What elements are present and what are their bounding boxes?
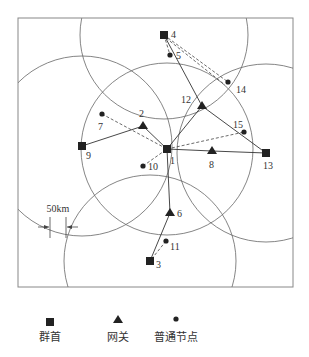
link-9-2: [82, 126, 143, 146]
cluster-head-icon: [163, 145, 171, 153]
cluster-head-legend-icon: [46, 318, 54, 326]
link-1-8: [167, 149, 212, 151]
normal-node-icon: [140, 163, 145, 168]
legend-normal-node-label: 普通节点: [154, 330, 198, 344]
network-topology-diagram: 123456789101112131415 50km 群首 网关 普通节点: [0, 0, 309, 357]
normal-node-icon: [163, 238, 168, 243]
legend: 群首 网关 普通节点: [39, 315, 198, 344]
node-label-3: 3: [156, 259, 161, 270]
node-label-8: 8: [209, 159, 214, 170]
node-label-7: 7: [98, 121, 103, 132]
node-label-13: 13: [263, 160, 273, 171]
dashed-link-7-1: [102, 114, 167, 149]
cluster-head-icon: [262, 149, 270, 157]
node-label-4: 4: [171, 29, 176, 40]
node-label-1: 1: [170, 155, 175, 166]
normal-node-icon: [225, 79, 230, 84]
normal-node-icon: [99, 111, 104, 116]
node-label-5: 5: [176, 50, 181, 61]
gateway-icon: [138, 121, 148, 129]
coverage-circles: [0, 0, 309, 347]
node-label-11: 11: [170, 241, 180, 252]
link-6-3: [150, 213, 170, 261]
node-label-10: 10: [148, 161, 158, 172]
node-label-9: 9: [86, 150, 91, 161]
cluster-head-icon: [160, 31, 168, 39]
dashed-link-4-14b: [166, 38, 225, 85]
normal-node-legend-icon: [173, 316, 178, 321]
legend-cluster-head-label: 群首: [39, 330, 61, 344]
normal-node-icon: [167, 52, 172, 57]
links: [82, 35, 266, 261]
node-label-12: 12: [181, 94, 191, 105]
node-label-6: 6: [177, 208, 182, 219]
normal-node-icon: [241, 129, 246, 134]
node-label-14: 14: [236, 84, 246, 95]
node-label-2: 2: [139, 108, 144, 119]
node-label-15: 15: [233, 119, 243, 130]
cluster-head-icon: [78, 142, 86, 150]
dashed-link-4-14: [164, 35, 228, 82]
gateway-legend-icon: [113, 315, 123, 323]
cluster-head-icon: [146, 257, 154, 265]
legend-gateway-label: 网关: [107, 330, 129, 344]
gateway-icon: [197, 101, 207, 109]
gateway-icon: [207, 146, 217, 154]
link-8-13: [212, 151, 266, 153]
scale-label: 50km: [47, 203, 70, 214]
gateway-icon: [165, 208, 175, 216]
